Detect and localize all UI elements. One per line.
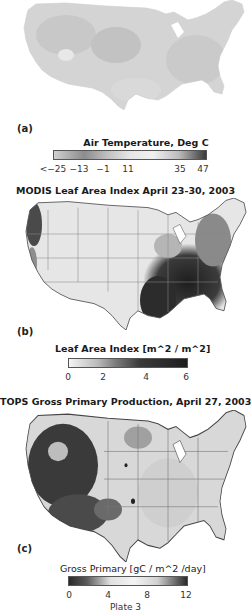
colorbar-gross-primary xyxy=(68,576,188,586)
colorbar-title-leaf-area-index: Leaf Area Index [m^2 / m^2] xyxy=(55,343,205,354)
tick: 47 xyxy=(197,164,208,174)
tick: 11 xyxy=(122,164,133,174)
tick: <−25 xyxy=(40,164,67,174)
tick: 0 xyxy=(66,590,72,600)
tick: −1 xyxy=(96,164,109,174)
map-air-temperature xyxy=(6,0,246,110)
plate-caption: Plate 3 xyxy=(0,602,251,612)
panel-label-c: (c) xyxy=(17,543,32,554)
tick: 0 xyxy=(65,372,71,382)
colorbar-leaf-area-index xyxy=(68,358,188,368)
colorbar-title-gross-primary: Gross Primary [gC / m^2 /day] xyxy=(60,563,200,574)
tick: 4 xyxy=(143,372,149,382)
tick: 4 xyxy=(105,590,111,600)
title-tops-gpp: TOPS Gross Primary Production, April 27,… xyxy=(0,396,251,407)
tick: 35 xyxy=(174,164,185,174)
colorbar-air-temperature xyxy=(53,150,207,160)
colorbar-title-air-temperature: Air Temperature, Deg C xyxy=(76,137,216,148)
panel-label-a: (a) xyxy=(17,123,33,134)
title-modis-lai: MODIS Leaf Area Index April 23-30, 2003 xyxy=(0,185,251,196)
map-gross-primary-production xyxy=(8,410,248,562)
tick: 12 xyxy=(180,590,191,600)
panel-label-b: (b) xyxy=(17,326,33,337)
tick: 8 xyxy=(144,590,150,600)
tick: −13 xyxy=(70,164,89,174)
map-leaf-area-index xyxy=(8,198,248,330)
tick: 6 xyxy=(183,372,189,382)
tick: 2 xyxy=(100,372,106,382)
